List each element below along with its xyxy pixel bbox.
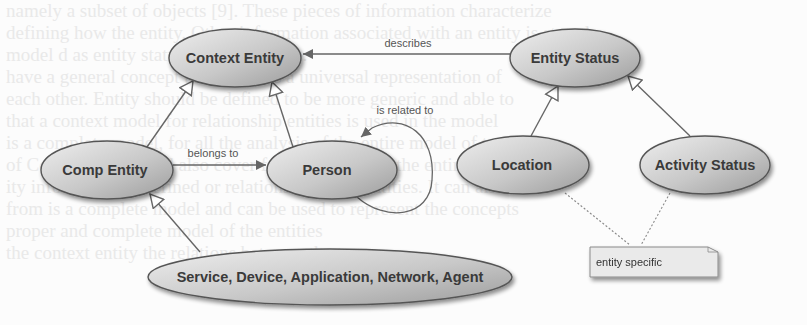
node-label: Activity Status [655, 157, 756, 173]
node-label: Comp Entity [62, 162, 147, 178]
diagram-canvas: namely a subset of objects [9]. These pi… [0, 0, 807, 325]
note-connector-location [565, 193, 630, 245]
edge-label-belongs-to: belongs to [188, 147, 239, 159]
edge-comp-entity-to-context-entity [147, 81, 193, 147]
node-label: Location [492, 157, 552, 173]
node-location[interactable]: Location [457, 136, 589, 194]
node-activity-status[interactable]: Activity Status [640, 136, 770, 194]
edge-label-describes: describes [384, 37, 432, 49]
edge-service-to-comp-entity [150, 194, 200, 252]
note-connector-activity-status [641, 193, 670, 245]
node-label: Context Entity [186, 50, 284, 66]
node-entity-status[interactable]: Entity Status [510, 29, 640, 87]
edge-label-is-related-to: is related to [377, 104, 434, 116]
node-service-device-application-network-agent[interactable]: Service, Device, Application, Network, A… [148, 249, 512, 305]
edge-location-to-entity-status [531, 86, 558, 136]
node-context-entity[interactable]: Context Entity [169, 29, 301, 87]
edge-person-to-context-entity [272, 82, 293, 147]
node-person[interactable]: Person [267, 141, 397, 199]
node-comp-entity[interactable]: Comp Entity [41, 141, 173, 199]
node-label: Person [302, 162, 351, 178]
edge-activity-status-to-entity-status [628, 76, 690, 136]
note-entity-specific[interactable]: entity specific [590, 247, 718, 277]
node-label: Entity Status [531, 50, 620, 66]
uml-diagram: describes belongs to is related to Conte… [0, 0, 807, 325]
node-label: Service, Device, Application, Network, A… [177, 269, 484, 285]
note-label: entity specific [596, 256, 663, 268]
